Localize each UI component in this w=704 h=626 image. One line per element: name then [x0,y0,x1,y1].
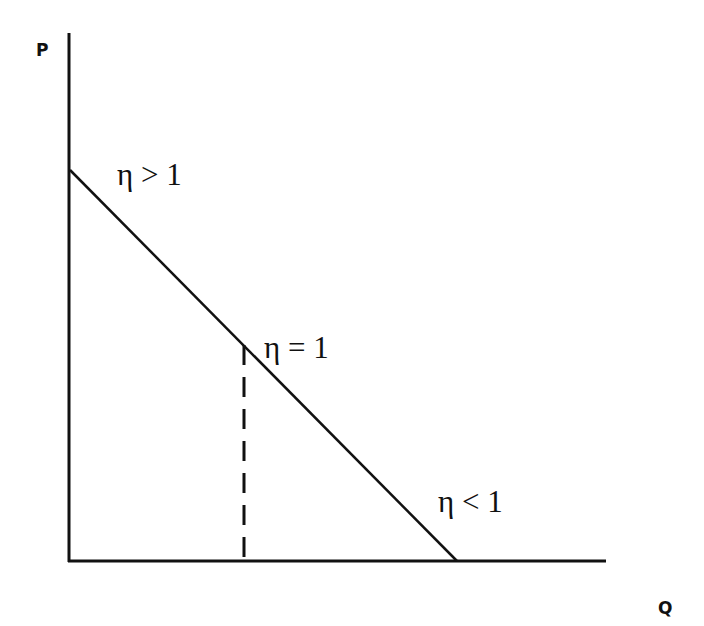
y-axis-label: P [36,40,48,60]
inelastic-label: η < 1 [438,484,503,519]
unit-elastic-label: η = 1 [264,330,329,365]
demand-curve [70,170,457,561]
x-axis-label: Q [658,598,672,618]
elasticity-diagram: P Q η > 1 η = 1 η < 1 [0,0,704,626]
elastic-label: η > 1 [117,157,182,192]
